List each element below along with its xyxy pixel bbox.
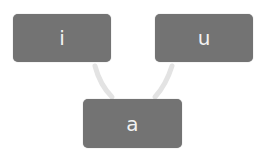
node-i: i <box>13 14 111 62</box>
node-a: a <box>83 99 182 148</box>
node-a-label: a <box>126 112 138 136</box>
node-u-label: u <box>198 26 211 50</box>
node-u: u <box>155 14 253 62</box>
node-i-label: i <box>59 26 65 50</box>
connector-i-a <box>95 66 112 97</box>
connector-u-a <box>155 66 172 97</box>
